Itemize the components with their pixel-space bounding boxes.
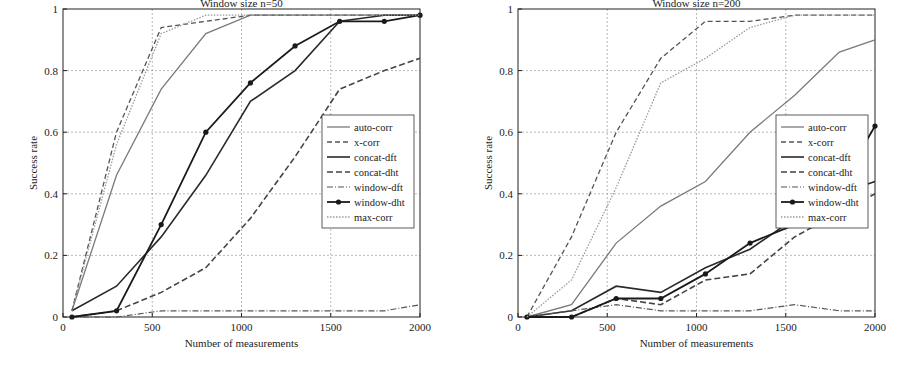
- legend-label-window-dht: window-dht: [354, 197, 405, 208]
- x-tick-label: 500: [144, 321, 161, 333]
- data-point: [658, 296, 663, 301]
- y-tick-label: 0.4: [499, 188, 513, 200]
- data-point: [747, 240, 752, 245]
- x-tick-label: 2000: [864, 321, 887, 333]
- x-axis-label: Number of measurements: [640, 337, 754, 349]
- x-tick-label: 1000: [686, 321, 709, 333]
- legend-label-concat-dht: concat-dht: [808, 167, 852, 178]
- x-tick-label: 1000: [231, 321, 254, 333]
- x-axis-label: Number of measurements: [185, 337, 299, 349]
- legend-label-window-dft: window-dft: [808, 182, 857, 193]
- y-axis-label: Success rate: [482, 136, 494, 190]
- figure: 050010001500200000.20.40.60.81Window siz…: [0, 0, 918, 371]
- data-point: [703, 271, 708, 276]
- legend-marker: [336, 199, 341, 204]
- y-tick-label: 0.4: [44, 188, 58, 200]
- x-tick-label: 1500: [775, 321, 798, 333]
- legend-label-window-dft: window-dft: [354, 182, 403, 193]
- data-point: [248, 80, 253, 85]
- data-point: [614, 296, 619, 301]
- legend-label-auto-corr: auto-corr: [354, 122, 393, 133]
- data-point: [114, 308, 119, 313]
- y-tick-label: 0: [508, 311, 514, 323]
- legend: auto-corrx-corrconcat-dftconcat-dhtwindo…: [322, 115, 414, 228]
- legend-label-concat-dft: concat-dft: [808, 152, 851, 163]
- data-point: [337, 19, 342, 24]
- y-tick-label: 0.2: [44, 249, 58, 261]
- x-tick-label: 500: [599, 321, 616, 333]
- data-point: [69, 314, 74, 319]
- chart-2: 050010001500200000.20.40.60.81Window siz…: [482, 0, 887, 349]
- y-tick-label: 0.6: [44, 126, 58, 138]
- legend-label-window-dht: window-dht: [808, 197, 859, 208]
- legend-label-concat-dht: concat-dht: [354, 167, 398, 178]
- y-tick-label: 1: [508, 3, 514, 15]
- data-point: [569, 314, 574, 319]
- data-point: [382, 19, 387, 24]
- x-tick-label: 1500: [320, 321, 343, 333]
- y-tick-label: 0: [53, 311, 59, 323]
- chart-title: Window size n=50: [200, 0, 283, 9]
- data-point: [159, 222, 164, 227]
- x-tick-label: 2000: [409, 321, 432, 333]
- y-axis-label: Success rate: [27, 136, 39, 190]
- data-point: [292, 43, 297, 48]
- x-tick-label: 0: [515, 321, 521, 333]
- legend-label-max-corr: max-corr: [808, 212, 847, 223]
- y-tick-label: 0.8: [44, 65, 58, 77]
- legend: auto-corrx-corrconcat-dftconcat-dhtwindo…: [776, 115, 868, 228]
- legend-label-auto-corr: auto-corr: [808, 122, 847, 133]
- chart-1: 050010001500200000.20.40.60.81Window siz…: [27, 0, 432, 349]
- legend-label-x-corr: x-corr: [808, 137, 834, 148]
- data-point: [203, 130, 208, 135]
- chart-title: Window size n=200: [652, 0, 741, 9]
- data-point: [872, 123, 877, 128]
- y-tick-label: 0.2: [499, 249, 513, 261]
- legend-label-x-corr: x-corr: [354, 137, 380, 148]
- legend-marker: [790, 199, 795, 204]
- legend-label-max-corr: max-corr: [354, 212, 393, 223]
- x-tick-label: 0: [60, 321, 66, 333]
- figure-canvas: 050010001500200000.20.40.60.81Window siz…: [0, 0, 918, 371]
- y-tick-label: 0.6: [499, 126, 513, 138]
- legend-label-concat-dft: concat-dft: [354, 152, 397, 163]
- y-tick-label: 1: [53, 3, 59, 15]
- y-tick-label: 0.8: [499, 65, 513, 77]
